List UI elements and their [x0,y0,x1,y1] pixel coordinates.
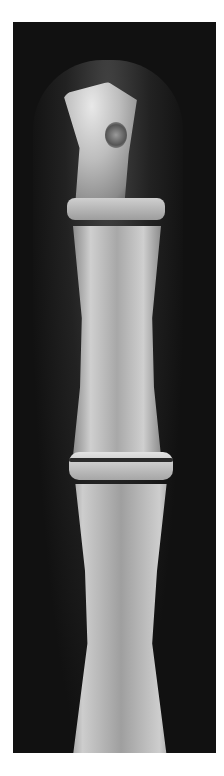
distal-phalanx-base [67,198,165,220]
middle-phalanx-base [69,452,173,480]
proximal-interphalangeal-joint [69,458,173,462]
xray-frame [13,22,216,753]
middle-phalanx [73,226,161,456]
distal-phalanx-lucency [105,122,127,148]
